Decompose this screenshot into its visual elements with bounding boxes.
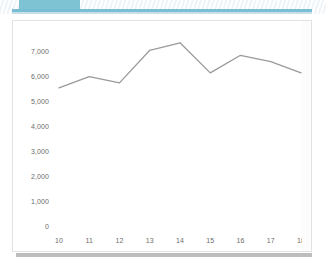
y-axis-tick-label: 3,000	[15, 148, 49, 155]
x-axis-tick-label: 12	[111, 237, 129, 244]
x-axis-tick-label: 13	[141, 237, 159, 244]
y-axis-tick-label: 0	[15, 223, 49, 230]
chart-panel: 01,0002,0003,0004,0005,0006,0007,0001011…	[12, 20, 312, 252]
y-axis-tick-label: 4,000	[15, 123, 49, 130]
chart-plot-svg	[13, 21, 313, 253]
panel-scrollbar-track[interactable]	[302, 21, 310, 251]
x-axis-tick-label: 10	[50, 237, 68, 244]
y-axis-tick-label: 5,000	[15, 98, 49, 105]
x-axis-tick-label: 16	[232, 237, 250, 244]
x-axis-tick-label: 17	[262, 237, 280, 244]
header-rule-shadow	[12, 12, 312, 14]
y-axis-tick-label: 2,000	[15, 173, 49, 180]
y-axis-tick-label: 7,000	[15, 48, 49, 55]
series-line	[59, 43, 301, 88]
y-axis-tick-label: 6,000	[15, 73, 49, 80]
x-axis-tick-label: 15	[201, 237, 219, 244]
header-tab[interactable]	[19, 0, 80, 9]
y-axis-tick-label: 1,000	[15, 198, 49, 205]
line-chart: 01,0002,0003,0004,0005,0006,0007,0001011…	[13, 21, 313, 253]
x-axis-tick-label: 14	[171, 237, 189, 244]
panel-bottom-shadow	[16, 253, 312, 257]
x-axis-tick-label: 11	[80, 237, 98, 244]
